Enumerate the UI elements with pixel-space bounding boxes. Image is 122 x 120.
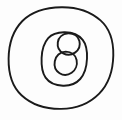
nested-circles-figure [0,0,122,120]
drawing-canvas [0,0,122,120]
canvas-background [0,0,122,120]
